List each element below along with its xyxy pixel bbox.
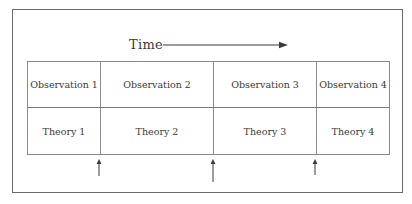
observation-cell-3: Observation 3 (214, 62, 316, 107)
observation-label-2: Observation 2 (123, 79, 191, 90)
time-arrow-icon (163, 40, 289, 50)
observation-cell-2: Observation 2 (101, 62, 213, 107)
theory-cell-4: Theory 4 (317, 108, 389, 154)
theory-cell-1: Theory 1 (28, 108, 100, 154)
observation-label-3: Observation 3 (231, 79, 299, 90)
up-arrow-icon (311, 159, 319, 175)
observation-theory-table: Observation 1 Observation 2 Observation … (27, 61, 390, 155)
theory-label-4: Theory 4 (332, 126, 375, 137)
time-label: Time (129, 37, 163, 53)
observation-cell-4: Observation 4 (317, 62, 389, 107)
theory-label-1: Theory 1 (43, 126, 86, 137)
observation-label-1: Observation 1 (30, 79, 98, 90)
theory-cell-3: Theory 3 (214, 108, 316, 154)
theory-label-3: Theory 3 (244, 126, 287, 137)
theory-cell-2: Theory 2 (101, 108, 213, 154)
theory-label-2: Theory 2 (136, 126, 179, 137)
up-arrow-icon (209, 159, 217, 182)
up-arrow-icon (95, 159, 103, 176)
observation-cell-1: Observation 1 (28, 62, 100, 107)
observation-label-4: Observation 4 (319, 79, 387, 90)
